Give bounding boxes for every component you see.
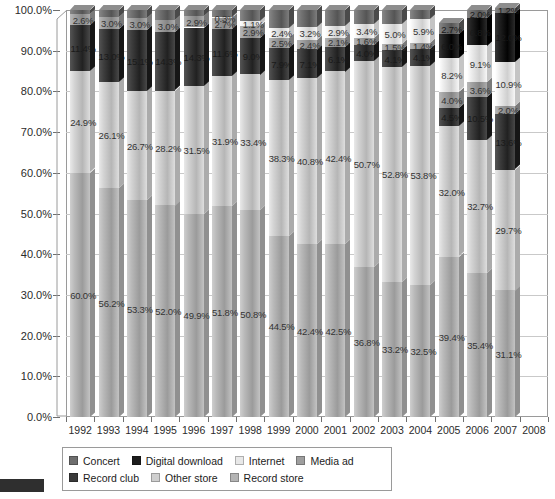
page-bottom-stub <box>0 479 44 492</box>
x-axis-tick-mark <box>435 417 436 422</box>
bar-value-label: 14.3% <box>184 51 210 62</box>
bar-value-label: 44.5% <box>269 321 295 332</box>
legend-item[interactable]: Concert <box>69 455 120 467</box>
legend-swatch <box>235 456 244 465</box>
bar-column[interactable] <box>354 10 374 417</box>
bar-segment-face <box>325 10 345 26</box>
bar-column[interactable] <box>382 10 402 417</box>
legend-label: Record club <box>83 472 139 484</box>
x-axis-tick-mark <box>463 417 464 422</box>
bar-value-label: 52.0% <box>155 306 181 317</box>
y-axis-tick-mark <box>53 417 60 418</box>
legend-swatch <box>69 456 78 465</box>
bar-value-label: 2.7% <box>441 23 462 34</box>
bar-value-label: 32.5% <box>410 345 436 356</box>
bar-segment[interactable] <box>325 10 345 26</box>
bar-column[interactable] <box>325 10 345 417</box>
bar-column[interactable] <box>212 10 232 417</box>
x-axis-tick-mark <box>548 417 549 422</box>
bar-column[interactable] <box>155 10 175 417</box>
x-axis-tick-label: 1994 <box>125 424 148 436</box>
y-axis-tick-label: 0.0% <box>27 411 52 423</box>
legend-row-2: Record clubOther storeRecord store <box>69 469 385 486</box>
bar-column[interactable] <box>70 10 90 417</box>
bar-segment[interactable] <box>382 10 402 24</box>
bar-value-label: 1.1% <box>243 18 264 29</box>
legend-item[interactable]: Digital download <box>132 455 223 467</box>
bar-value-label: 31.5% <box>184 144 210 155</box>
bar-segment[interactable] <box>127 10 147 18</box>
y-axis-tick-label: 40.0% <box>21 248 52 260</box>
bar-value-label: 11.6% <box>212 47 237 58</box>
x-axis-tick-mark <box>66 417 67 422</box>
legend-label: Media ad <box>310 455 353 467</box>
bar-value-label: 29.7% <box>496 224 522 235</box>
bar-value-label: 33.4% <box>240 137 266 148</box>
y-axis-tick-label: 90.0% <box>21 45 52 57</box>
bar-segment[interactable] <box>410 10 430 19</box>
bar-top-cap <box>269 5 294 10</box>
bar-column[interactable] <box>184 10 204 417</box>
x-axis-tick-mark <box>406 417 407 422</box>
bar-column[interactable] <box>240 10 260 417</box>
y-axis-tick-label: 10.0% <box>21 370 52 382</box>
legend-item[interactable]: Other store <box>151 472 218 484</box>
x-axis-tick-mark <box>179 417 180 422</box>
x-axis-tick-label: 1999 <box>267 424 290 436</box>
x-axis-tick-mark <box>94 417 95 422</box>
legend-label: Concert <box>83 455 120 467</box>
bar-top-cap <box>354 5 379 10</box>
x-axis-tick-mark <box>350 417 351 422</box>
x-axis-tick-label: 1993 <box>97 424 120 436</box>
bar-segment[interactable] <box>297 10 317 27</box>
bar-value-label: 42.5% <box>325 325 351 336</box>
legend-item[interactable]: Internet <box>235 455 285 467</box>
bar-value-label: 3.4% <box>356 26 377 37</box>
bar-value-label: 6.0% <box>441 41 462 52</box>
bar-column[interactable] <box>99 10 119 417</box>
x-axis-tick-label: 1995 <box>154 424 177 436</box>
x-axis-tick-label: 2006 <box>465 424 488 436</box>
legend-item[interactable]: Media ad <box>296 455 353 467</box>
bar-value-label: 1.6% <box>356 36 377 47</box>
bar-segment[interactable] <box>155 10 175 20</box>
bar-value-label: 26.7% <box>127 140 153 151</box>
plot-area: 60.0%24.9%11.4%2.6%56.2%26.1%13.0%3.0%53… <box>66 10 548 417</box>
bar-value-label: 42.4% <box>325 152 351 163</box>
bar-value-label: 10.5% <box>467 113 493 124</box>
x-axis-tick-label: 2001 <box>324 424 347 436</box>
bar-segment[interactable] <box>184 10 204 16</box>
bar-value-label: 50.8% <box>240 308 266 319</box>
legend-row-1: ConcertDigital downloadInternetMedia ad <box>69 452 385 469</box>
bar-value-label: 0.3% <box>215 12 236 23</box>
x-axis-tick-label: 1996 <box>182 424 205 436</box>
bar-value-label: 2.4% <box>271 27 292 38</box>
bar-value-label: 2.5% <box>271 37 292 48</box>
bar-column[interactable] <box>269 10 289 417</box>
bar-column[interactable] <box>467 10 487 417</box>
bar-value-label: 31.9% <box>212 136 238 147</box>
bar-value-label: 51.8% <box>212 306 238 317</box>
x-axis-tick-mark <box>321 417 322 422</box>
bar-value-label: 2.9% <box>328 27 349 38</box>
bar-segment[interactable] <box>269 10 289 28</box>
bar-value-label: 3.0% <box>158 21 179 32</box>
bar-segment[interactable] <box>99 10 119 17</box>
bar-column[interactable] <box>127 10 147 417</box>
chart-legend: ConcertDigital downloadInternetMedia ad … <box>62 447 392 491</box>
bar-value-label: 8.2% <box>441 70 462 81</box>
x-axis-tick-mark <box>236 417 237 422</box>
bar-value-label: 3.0% <box>129 18 150 29</box>
bar-segment-face <box>155 10 175 20</box>
x-axis-tick-mark <box>491 417 492 422</box>
bar-column[interactable] <box>297 10 317 417</box>
bar-value-label: 39.4% <box>439 331 465 342</box>
bar-top-cap <box>184 5 209 10</box>
bar-segment[interactable] <box>354 10 374 24</box>
bar-value-label: 7.1% <box>300 58 321 69</box>
legend-item[interactable]: Record store <box>230 472 304 484</box>
bar-value-label: 13.0% <box>99 50 125 61</box>
bar-value-label: 11.4% <box>71 43 96 54</box>
legend-item[interactable]: Record club <box>69 472 139 484</box>
y-axis-tick-label: 20.0% <box>21 330 52 342</box>
